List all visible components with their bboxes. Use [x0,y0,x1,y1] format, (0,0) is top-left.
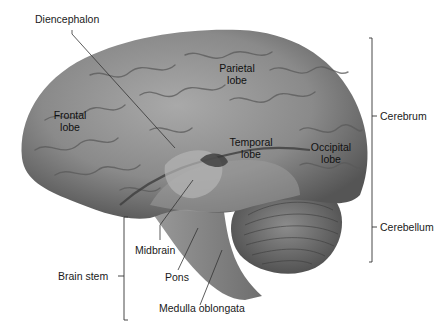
label-frontal-lobe: Frontal lobe [50,109,90,133]
label-brain-stem: Brain stem [58,270,108,282]
label-cerebellum: Cerebellum [380,221,434,233]
label-parietal-lobe: Parietal lobe [212,62,262,86]
label-diencephalon: Diencephalon [35,13,99,25]
label-cerebrum: Cerebrum [380,110,427,122]
brain-stem-bracket [124,217,128,320]
label-midbrain: Midbrain [135,244,175,256]
label-medulla-oblongata: Medulla oblongata [159,302,245,314]
brain-illustration [0,0,447,335]
cerebrum-bracket [369,38,372,160]
brain-diagram: Diencephalon Frontal lobe Parietal lobe … [0,0,447,335]
label-pons: Pons [165,271,189,283]
label-occipital-lobe: Occipital lobe [306,141,356,165]
cerebellum-bracket [369,190,372,262]
label-temporal-lobe: Temporal lobe [224,136,278,160]
